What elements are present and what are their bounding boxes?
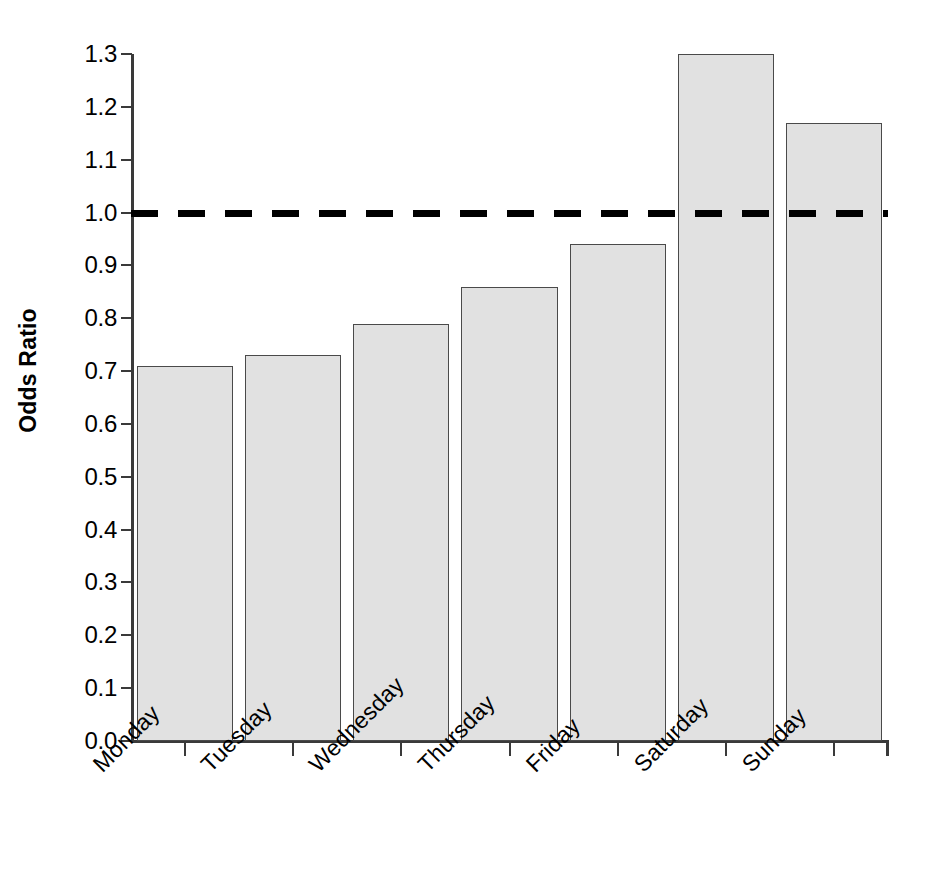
x-axis-tick [509,743,511,756]
y-axis-tick-label: 0.7 [7,359,117,383]
y-axis-tick-label: 1.2 [7,95,117,119]
bar [245,355,341,741]
y-axis-tick-label: 0.9 [7,253,117,277]
bar [461,287,557,741]
reference-line [131,210,888,217]
y-axis-tick-label: 0.6 [7,412,117,436]
y-axis-tick-label: 1.1 [7,148,117,172]
bar [678,54,774,741]
bar [570,244,666,741]
y-axis-tick-label: 0.1 [7,676,117,700]
x-axis-end-tick [886,740,889,756]
odds-ratio-bar-chart: Odds Ratio 0.00.10.20.30.40.50.60.70.80.… [0,0,925,875]
y-axis-tick-label: 1.0 [7,201,117,225]
y-axis-tick-label: 0.2 [7,623,117,647]
y-axis-tick-label: 0.5 [7,465,117,489]
y-axis-tick-label: 0.4 [7,518,117,542]
x-axis-tick [617,743,619,756]
y-axis-tick-label: 0.8 [7,306,117,330]
y-axis-tick-label: 0.3 [7,570,117,594]
x-axis-tick [400,743,402,756]
plot-area [131,54,888,741]
x-axis-tick [725,743,727,756]
bar [137,366,233,741]
bar [353,324,449,741]
y-axis-tick-label: 1.3 [7,42,117,66]
x-axis-tick [833,743,835,756]
x-axis-tick [292,743,294,756]
x-axis-tick [184,743,186,756]
